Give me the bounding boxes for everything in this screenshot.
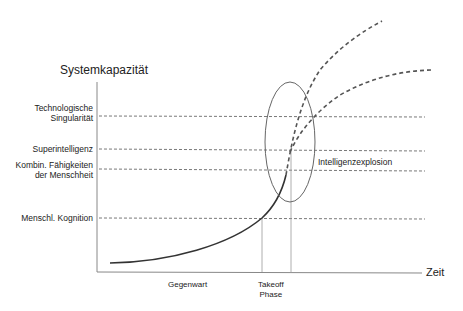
- intelligence-explosion-ellipse: [265, 82, 315, 202]
- level-line-humanity: [99, 169, 425, 171]
- level-label-singularity: Technologische Singularität: [34, 103, 93, 123]
- diagram-canvas: [0, 0, 463, 311]
- level-label-human-cognition: Menschl. Kognition: [21, 213, 93, 223]
- annotation-intelligence-explosion: Intelligenzexplosion: [318, 157, 392, 167]
- level-label-superintelligence: Superintelligenz: [33, 144, 93, 154]
- x-axis-title: Zeit: [426, 266, 444, 278]
- growth-curve: [110, 175, 286, 263]
- y-axis-title: Systemkapazität: [60, 63, 148, 77]
- x-label-present: Gegenwart: [168, 280, 207, 290]
- x-axis: [97, 272, 422, 273]
- x-label-takeoff: Takeoff Phase: [258, 280, 284, 300]
- projection-curve-upper: [286, 21, 382, 175]
- level-line-singularity: [99, 116, 425, 117]
- level-line-superintelligence: [99, 149, 425, 151]
- level-label-humanity: Kombin. Fähigkeiten der Menschheit: [16, 160, 94, 180]
